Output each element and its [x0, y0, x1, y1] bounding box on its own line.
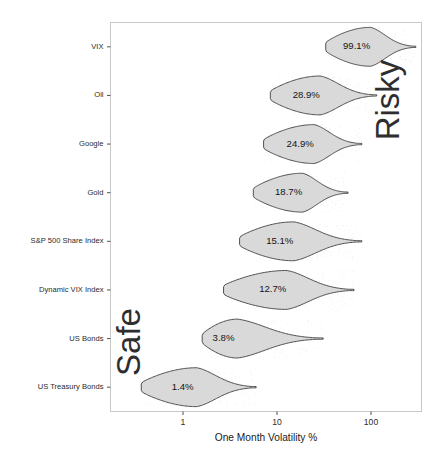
violin-label: 1.4% [172, 381, 194, 392]
violin-label: 12.7% [259, 283, 287, 294]
y-axis-label: Gold [87, 188, 103, 197]
annotation-safe: Safe [110, 308, 147, 376]
y-axis-label: Dynamic VIX Index [39, 285, 104, 294]
y-axis-label: US Bonds [69, 334, 103, 343]
violin-chart: 99.1%28.9%24.9%18.7%15.1%12.7%3.8%1.4% V… [0, 0, 443, 462]
x-axis-tick-label: 100 [364, 417, 379, 427]
violin-label: 3.8% [213, 332, 235, 343]
violin-label: 15.1% [266, 235, 294, 246]
x-axis-tick-label: 10 [272, 417, 282, 427]
x-axis-tick-label: 1 [181, 417, 186, 427]
x-axis-title: One Month Volatility % [215, 432, 318, 443]
y-axis-label: Oil [94, 90, 104, 99]
y-axis-label: VIX [91, 42, 103, 51]
violin-label: 24.9% [287, 138, 315, 149]
violin-label: 18.7% [275, 186, 303, 197]
y-axis-label: S&P 500 Share Index [31, 236, 104, 245]
y-axis-label: Google [79, 139, 104, 148]
y-axis-label: US Treasury Bonds [38, 382, 104, 391]
violin-label: 28.9% [293, 89, 321, 100]
violin-label: 99.1% [343, 40, 371, 51]
annotation-risky: Risky [369, 59, 406, 140]
